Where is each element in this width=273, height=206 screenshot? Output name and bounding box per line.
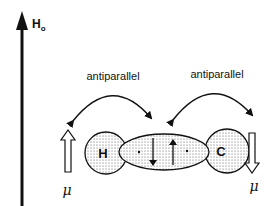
carbon-atom — [205, 129, 249, 173]
mu-label-left: μ — [62, 182, 71, 198]
curved-arrow-left-icon — [73, 96, 151, 121]
antiparallel-label-left: antiparallel — [86, 70, 139, 82]
atom-label-h: H — [98, 146, 107, 161]
mu-label-right: μ — [249, 178, 258, 194]
bond-orbital — [119, 134, 209, 170]
field-arrow-icon — [16, 11, 28, 206]
moment-up-arrow-icon — [61, 130, 75, 172]
field-label: Ho — [32, 17, 46, 33]
curved-arrow-right-icon — [173, 94, 252, 120]
atom-label-c: C — [216, 144, 226, 159]
electron-dot-left — [138, 151, 140, 153]
hc-coupling-diagram: Ho antiparallel antiparallel H C μ μ — [0, 0, 273, 206]
antiparallel-label-right: antiparallel — [190, 68, 243, 80]
electron-dot-right — [186, 150, 188, 152]
